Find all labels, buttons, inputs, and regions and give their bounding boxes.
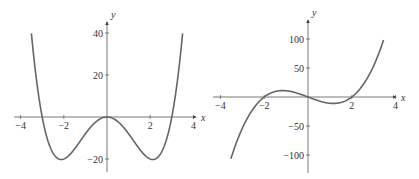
function-curve (231, 40, 384, 159)
x-tick-label: −2 (58, 120, 69, 131)
y-axis-label: y (311, 7, 317, 18)
x-axis-label: x (400, 92, 406, 103)
y-tick-label: 40 (93, 28, 103, 39)
y-tick-label: −50 (288, 121, 304, 132)
x-tick-label: −4 (215, 100, 226, 111)
cubic-plot: −4−22410050−50−100xy (213, 7, 406, 173)
y-tick-label: 50 (294, 63, 304, 74)
y-tick-label: −20 (87, 154, 103, 165)
x-tick-label: −4 (15, 120, 26, 131)
chart-canvas: −4−2244020−20xy −4−22410050−50−100xy (0, 0, 419, 179)
x-axis-label: x (200, 112, 206, 123)
y-tick-label: −100 (283, 150, 304, 161)
quartic-plot: −4−2244020−20xy (14, 9, 206, 172)
x-tick-label: 4 (191, 120, 196, 131)
x-tick-label: 4 (393, 100, 398, 111)
x-tick-label: 2 (349, 100, 354, 111)
y-tick-label: 100 (289, 34, 304, 45)
x-tick-label: 2 (148, 120, 153, 131)
y-tick-label: 20 (93, 70, 103, 81)
x-tick-label: −2 (259, 100, 270, 111)
y-axis-label: y (110, 9, 116, 20)
